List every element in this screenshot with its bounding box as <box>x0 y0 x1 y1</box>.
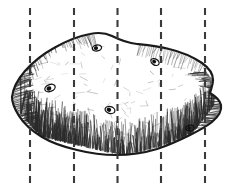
potato-section-diagram <box>0 0 236 190</box>
hatch-stroke <box>169 131 170 143</box>
hatch-stroke <box>213 107 220 108</box>
hatch-stroke <box>202 78 211 79</box>
figure-container <box>0 0 236 190</box>
hatch-stroke <box>164 131 165 145</box>
